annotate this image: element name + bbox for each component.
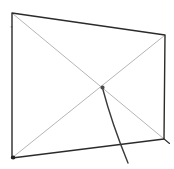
- left-edge-ink-speck: [11, 26, 13, 28]
- diagonal-topleft-bottomright-line: [13, 14, 164, 139]
- sketch-canvas: [0, 0, 174, 169]
- diagonal-topright-bottomleft-line: [13, 36, 165, 158]
- screen-sketch-figure: [0, 0, 174, 169]
- center-stand-line: [103, 88, 129, 163]
- bottom-left-corner-blob: [11, 155, 16, 159]
- bottom-right-corner-tail: [164, 139, 170, 144]
- screen-frame-outline: [12, 13, 165, 158]
- center-intersection-dot: [100, 85, 104, 89]
